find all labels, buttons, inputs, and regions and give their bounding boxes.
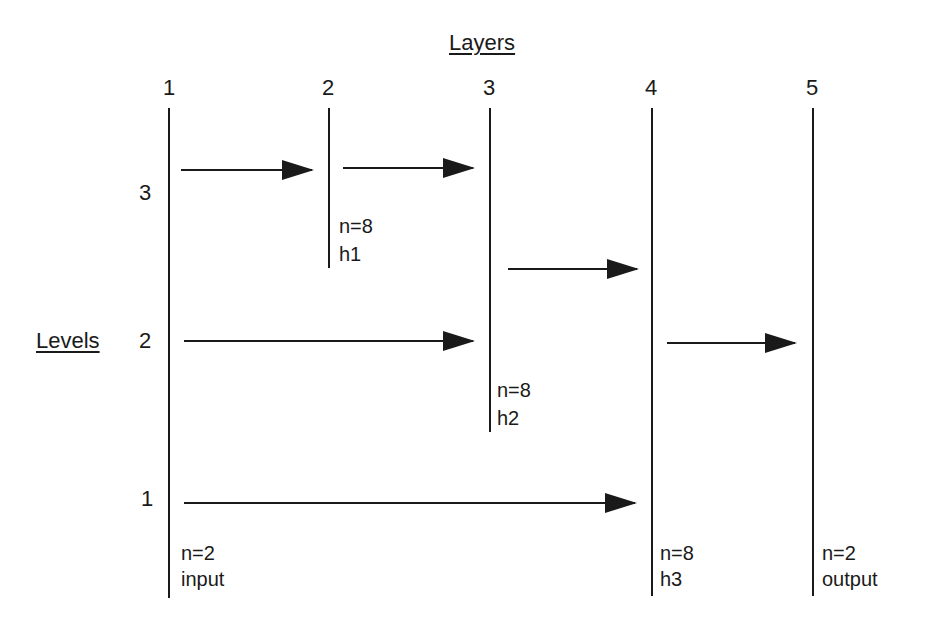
- level-number-1: 1: [141, 486, 153, 512]
- layer-1-name: input: [181, 566, 224, 592]
- arrow-l4-to-l5: [667, 342, 795, 344]
- layer-line-1: [168, 108, 170, 598]
- arrow-l1-to-l2: [181, 169, 312, 171]
- arrow-l3-to-l4: [508, 268, 637, 270]
- layer-number-4: 4: [645, 75, 657, 101]
- levels-label: Levels: [36, 328, 100, 354]
- layer-3-size: n=8: [497, 377, 531, 403]
- arrow-l2-to-l3: [343, 167, 473, 169]
- level-number-2: 2: [139, 328, 151, 354]
- layer-4-size: n=8: [660, 540, 694, 566]
- arrow-l1-to-l3: [184, 340, 473, 342]
- layer-number-3: 3: [483, 75, 495, 101]
- layers-title: Layers: [449, 30, 515, 56]
- layer-line-2: [328, 108, 330, 268]
- layer-line-4: [651, 108, 653, 596]
- arrow-l1-to-l4: [184, 502, 635, 504]
- level-number-3: 3: [139, 180, 151, 206]
- layer-3-name: h2: [497, 405, 519, 431]
- layer-5-name: output: [822, 566, 878, 592]
- layer-number-5: 5: [806, 75, 818, 101]
- layer-number-1: 1: [163, 75, 175, 101]
- layer-4-name: h3: [660, 566, 682, 592]
- layer-5-size: n=2: [822, 540, 856, 566]
- layer-1-size: n=2: [181, 540, 215, 566]
- layer-line-3: [489, 108, 491, 432]
- layer-number-2: 2: [322, 75, 334, 101]
- layer-line-5: [812, 108, 814, 596]
- layer-2-size: n=8: [339, 213, 373, 239]
- layer-2-name: h1: [339, 241, 361, 267]
